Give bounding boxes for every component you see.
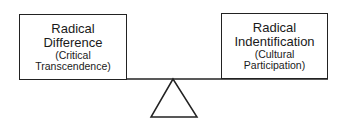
right-sub-line2: Participation)	[244, 60, 305, 71]
left-title-line1: Radical	[51, 22, 94, 36]
right-title-line2: Indentification	[234, 35, 314, 49]
left-title-line2: Difference	[43, 36, 102, 50]
radical-identification-box: Radical Indentification (Cultural Partic…	[221, 13, 328, 79]
fulcrum-triangle	[151, 79, 197, 117]
radical-difference-box: Radical Difference (Critical Transcenden…	[19, 14, 127, 80]
left-sub-line2: Transcendence)	[35, 61, 110, 72]
right-title-line1: Radical	[253, 21, 296, 35]
